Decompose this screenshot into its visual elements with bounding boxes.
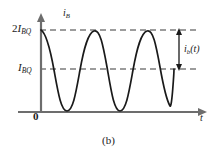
amplitude-arrow-head-top xyxy=(176,28,182,35)
quiescent-value-label: IBQ xyxy=(18,62,32,75)
y-axis-label: iB xyxy=(63,8,70,20)
amplitude-label: ib(t) xyxy=(184,44,200,56)
amplitude-label-argument: (t) xyxy=(190,43,199,54)
quiescent-label-subscript: BQ xyxy=(22,66,32,75)
amplitude-arrow-head-bottom xyxy=(176,64,182,71)
peak-label-subscript: BQ xyxy=(21,27,31,36)
x-axis-label: t xyxy=(200,113,203,123)
origin-label: 0 xyxy=(33,111,39,122)
y-axis-arrowhead xyxy=(37,13,45,22)
figure-caption: (b) xyxy=(0,134,217,146)
y-axis-label-subscript: B xyxy=(66,12,70,19)
base-current-waveform xyxy=(41,30,174,111)
peak-value-label: 2IBQ xyxy=(12,23,31,36)
figure-panel: iB 2IBQ IBQ 0 t ib(t) (b) xyxy=(0,0,217,159)
